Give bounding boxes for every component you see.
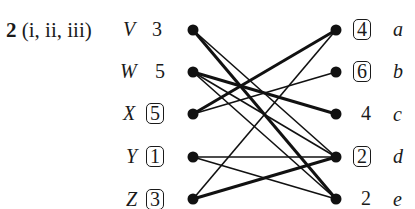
node-W	[188, 67, 199, 78]
node-d	[331, 152, 342, 163]
node-e	[331, 194, 342, 205]
bipartite-graph	[0, 0, 415, 209]
edge-W-e	[193, 72, 336, 199]
edge-X-a	[193, 30, 336, 114]
node-Y	[188, 152, 199, 163]
node-X	[188, 109, 199, 120]
node-b	[331, 67, 342, 78]
node-c	[331, 109, 342, 120]
node-Z	[188, 194, 199, 205]
node-V	[188, 25, 199, 36]
node-a	[331, 25, 342, 36]
